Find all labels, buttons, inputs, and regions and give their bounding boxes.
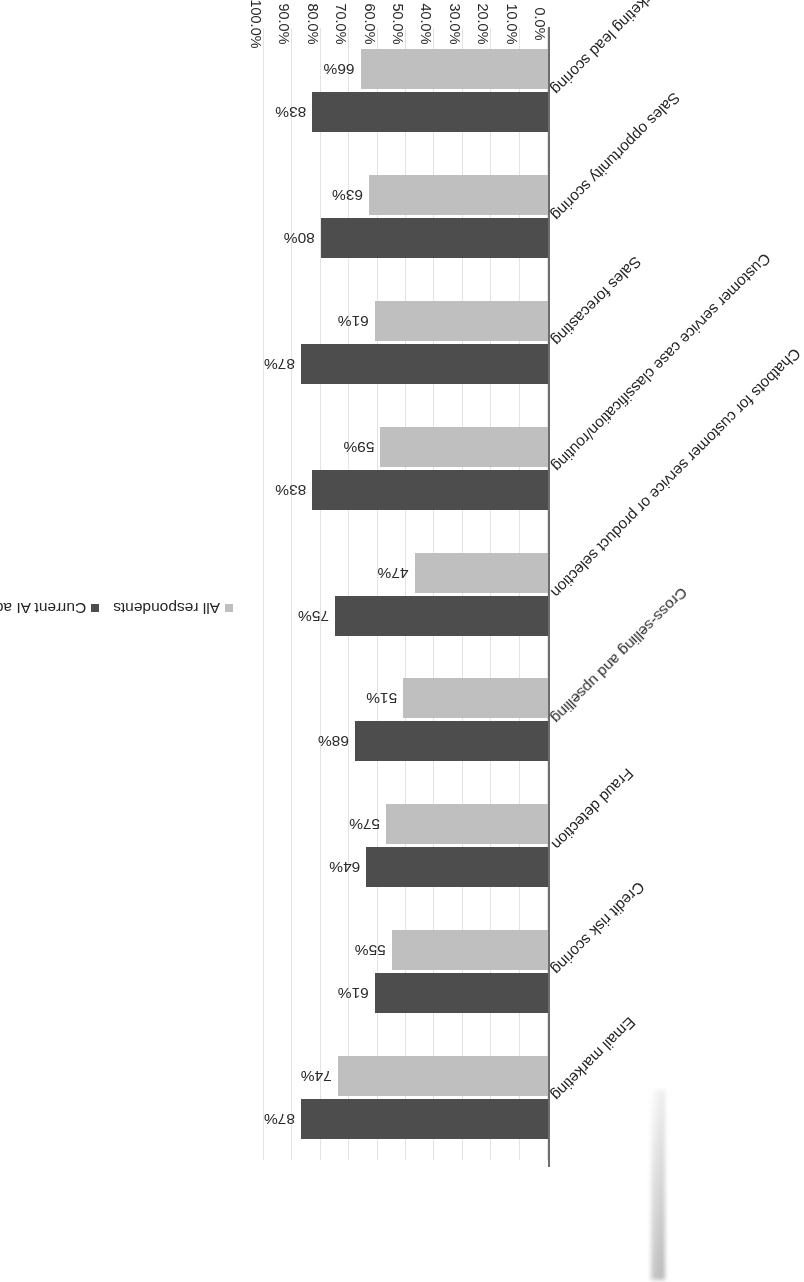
bar-value-label: 63% xyxy=(332,186,363,204)
bar-value-label: 83% xyxy=(275,481,306,499)
bar-all-respondents: 57% xyxy=(386,804,548,844)
bar-group: 68%51% xyxy=(264,657,548,783)
bar-all-respondents: 51% xyxy=(403,678,548,718)
legend-swatch-current-ai-adopters xyxy=(91,604,99,612)
value-tick-label: 80.0% xyxy=(305,3,321,44)
bar-value-label: 59% xyxy=(343,438,374,456)
plot-area: 83%66%80%63%87%61%83%59%75%47%68%51%64%5… xyxy=(264,28,548,1160)
legend-swatch-all-respondents xyxy=(225,604,233,612)
bar-all-respondents: 55% xyxy=(392,930,548,970)
legend-label-current-ai-adopters: Current AI adopters xyxy=(0,599,86,617)
bar-value-label: 57% xyxy=(349,815,380,833)
bar-group: 83%59% xyxy=(264,405,548,531)
category-label: Customer service case classification/rou… xyxy=(548,250,774,476)
bar-value-label: 61% xyxy=(338,984,369,1002)
bar-value-label: 74% xyxy=(301,1067,332,1085)
bar-value-label: 51% xyxy=(366,689,397,707)
value-tick-label: 40.0% xyxy=(418,3,434,44)
bar-all-respondents: 74% xyxy=(338,1056,548,1096)
bar-all-respondents: 59% xyxy=(380,427,548,467)
bar-value-label: 68% xyxy=(318,732,349,750)
category-label: Sales opportunity scoring xyxy=(548,88,684,224)
category-label: Email marketing xyxy=(548,1013,639,1104)
value-axis-ticks: 0.0%10.0%20.0%30.0%40.0%50.0%60.0%70.0%8… xyxy=(264,4,548,24)
bar-group: 64%57% xyxy=(264,783,548,909)
bar-current-ai-adopters: 64% xyxy=(366,847,548,887)
category-axis-line xyxy=(548,27,550,1167)
bar-group: 83%66% xyxy=(264,28,548,154)
value-tick-label: 20.0% xyxy=(475,3,491,44)
bar-value-label: 75% xyxy=(298,607,329,625)
category-label: Cross-selling and upselling xyxy=(548,583,692,727)
category-label: Sales forecasting xyxy=(548,253,645,350)
bar-all-respondents: 47% xyxy=(415,553,548,593)
value-tick-label: 60.0% xyxy=(362,3,378,44)
value-tick-label: 0.0% xyxy=(532,7,548,40)
scan-edge-shadow xyxy=(651,1090,665,1280)
bar-all-respondents: 63% xyxy=(369,175,548,215)
bar-current-ai-adopters: 83% xyxy=(312,470,548,510)
legend-entry-all-respondents: All respondents xyxy=(113,599,233,617)
bar-value-label: 64% xyxy=(329,858,360,876)
bar-value-label: 80% xyxy=(284,229,315,247)
legend-entry-current-ai-adopters: Current AI adopters xyxy=(0,599,99,617)
bar-all-respondents: 61% xyxy=(375,301,548,341)
bar-value-label: 55% xyxy=(355,941,386,959)
value-tick-label: 50.0% xyxy=(390,3,406,44)
bar-group: 87%74% xyxy=(264,1034,548,1160)
category-label: Credit risk scoring xyxy=(548,878,648,978)
bar-current-ai-adopters: 83% xyxy=(312,92,548,132)
bar-current-ai-adopters: 75% xyxy=(335,596,548,636)
bar-current-ai-adopters: 87% xyxy=(301,1099,548,1139)
category-label: Fraud detection xyxy=(548,764,637,853)
bar-group: 75%47% xyxy=(264,531,548,657)
bar-all-respondents: 66% xyxy=(361,49,548,89)
value-tick-label: 90.0% xyxy=(276,3,292,44)
bar-value-label: 87% xyxy=(264,355,295,373)
bar-current-ai-adopters: 61% xyxy=(375,973,548,1013)
bar-group: 87%61% xyxy=(264,280,548,406)
category-label: Sales and marketing lead scoring xyxy=(548,0,723,98)
value-tick-label: 70.0% xyxy=(333,3,349,44)
bar-group: 80%63% xyxy=(264,154,548,280)
bar-group: 61%55% xyxy=(264,908,548,1034)
value-tick-label: 100.0% xyxy=(248,0,264,49)
bar-current-ai-adopters: 68% xyxy=(355,721,548,761)
bar-value-label: 47% xyxy=(378,564,409,582)
bar-value-label: 87% xyxy=(264,1110,295,1128)
value-tick-label: 10.0% xyxy=(504,3,520,44)
chart-legend: All respondents Current AI adopters xyxy=(0,599,233,617)
legend-label-all-respondents: All respondents xyxy=(113,599,220,617)
bar-current-ai-adopters: 87% xyxy=(301,344,548,384)
bar-current-ai-adopters: 80% xyxy=(321,218,548,258)
bar-value-label: 66% xyxy=(324,60,355,78)
value-tick-label: 30.0% xyxy=(447,3,463,44)
bar-value-label: 83% xyxy=(275,103,306,121)
bar-value-label: 61% xyxy=(338,312,369,330)
category-label: Chatbots for customer service or product… xyxy=(548,344,804,601)
